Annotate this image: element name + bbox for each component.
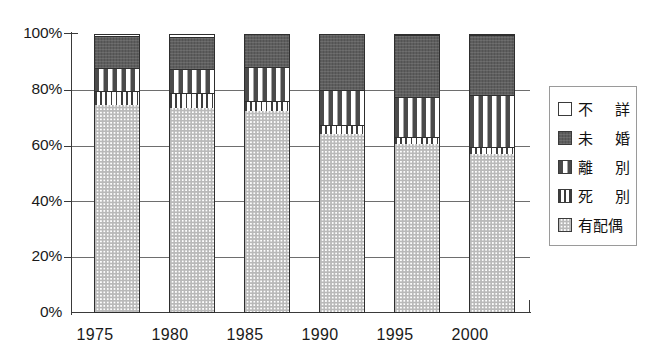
legend-label-ribetsu-right: 別 (615, 156, 630, 177)
chart-figure: 100% 80% 60% 40% 20% 0% (0, 0, 649, 363)
segment-1985-shibetsu (244, 101, 290, 111)
segment-1995-yuhaigu (394, 144, 440, 313)
segment-1975-ribetsu (94, 68, 140, 92)
tick-100 (64, 33, 72, 34)
legend-swatch-fusho-icon (558, 102, 572, 116)
legend-label-fusho-left: 不 (578, 98, 593, 119)
legend-label-shibetsu-right: 別 (615, 185, 630, 206)
legend-label-ribetsu: 離 別 (578, 156, 630, 177)
segment-1975-yuhaigu (94, 105, 140, 313)
segment-2000-shibetsu (469, 147, 515, 154)
legend-swatch-ribetsu-icon (558, 160, 572, 174)
segment-2000-fusho (469, 34, 515, 35)
segment-2000-mikon (469, 35, 515, 95)
plot-area (72, 34, 530, 313)
segment-1995-ribetsu (394, 97, 440, 138)
y-tick-label-40: 40% (0, 192, 62, 210)
y-tick-label-0: 0% (0, 303, 62, 321)
segment-1995-fusho (394, 34, 440, 35)
segment-1980-yuhaigu (169, 108, 215, 313)
segment-1995-shibetsu (394, 137, 440, 144)
gridline-80 (72, 90, 530, 91)
legend-label-ribetsu-left: 離 (578, 156, 593, 177)
gridline-60 (72, 146, 530, 147)
bar-1985[interactable] (244, 34, 290, 313)
x-tick-label-2000: 2000 (425, 326, 515, 344)
legend-label-fusho: 不 詳 (578, 98, 630, 119)
segment-1985-ribetsu (244, 67, 290, 101)
legend-label-mikon: 未 婚 (578, 127, 630, 148)
segment-1995-mikon (394, 35, 440, 96)
gridline-20 (72, 257, 530, 258)
legend-item-mikon[interactable]: 未 婚 (558, 123, 630, 152)
legend-label-fusho-right: 詳 (615, 98, 630, 119)
legend-swatch-mikon-icon (558, 131, 572, 145)
legend-label-mikon-left: 未 (578, 127, 593, 148)
segment-1980-ribetsu (169, 69, 215, 93)
legend-label-shibetsu-left: 死 (578, 185, 593, 206)
legend-item-fusho[interactable]: 不 詳 (558, 94, 630, 123)
bar-1975[interactable] (94, 34, 140, 313)
segment-1975-shibetsu (94, 91, 140, 105)
legend-item-shibetsu[interactable]: 死 別 (558, 181, 630, 210)
y-tick-label-80: 80% (0, 80, 62, 98)
bar-1995[interactable] (394, 34, 440, 313)
legend-swatch-yuhaigu-icon (558, 218, 572, 232)
bar-1980[interactable] (169, 34, 215, 313)
chart-legend: 不 詳 未 婚 離 別 死 別 (549, 86, 637, 246)
segment-2000-ribetsu (469, 95, 515, 147)
segment-1980-fusho (169, 34, 215, 37)
segment-1980-mikon (169, 37, 215, 69)
legend-label-shibetsu: 死 別 (578, 185, 630, 206)
legend-label-yuhaigu-left: 有配偶 (578, 214, 623, 235)
y-tick-label-100: 100% (0, 24, 62, 42)
legend-item-ribetsu[interactable]: 離 別 (558, 152, 630, 181)
segment-1990-shibetsu (319, 125, 365, 135)
segment-1985-yuhaigu (244, 111, 290, 313)
segment-1975-fusho (94, 34, 140, 36)
bar-2000[interactable] (469, 34, 515, 313)
segment-1975-mikon (94, 36, 140, 68)
segment-1990-yuhaigu (319, 134, 365, 313)
segment-1990-mikon (319, 34, 365, 90)
legend-item-yuhaigu[interactable]: 有配偶 (558, 210, 630, 239)
legend-swatch-shibetsu-icon (558, 189, 572, 203)
segment-1990-ribetsu (319, 90, 365, 125)
legend-label-yuhaigu: 有配偶 (578, 214, 630, 235)
bar-1990[interactable] (319, 34, 365, 313)
segment-2000-yuhaigu (469, 154, 515, 313)
segment-1980-shibetsu (169, 93, 215, 108)
legend-label-mikon-right: 婚 (615, 127, 630, 148)
gridline-40 (72, 201, 530, 202)
y-tick-label-60: 60% (0, 136, 62, 154)
y-tick-label-20: 20% (0, 247, 62, 265)
segment-1985-mikon (244, 34, 290, 67)
